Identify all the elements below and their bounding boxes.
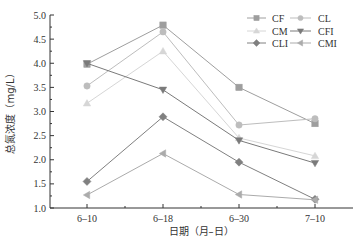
marker-triangle-up-icon: [159, 47, 166, 53]
y-tick-label: 2.0: [34, 154, 47, 165]
legend-label: CLI: [272, 38, 288, 49]
legend-label: CL: [318, 13, 331, 24]
series-line: [87, 51, 315, 156]
legend-label: CMI: [318, 38, 337, 49]
series-cfi: [83, 61, 318, 167]
marker-triangle-down-icon: [311, 160, 318, 166]
marker-diamond-icon: [253, 40, 260, 47]
series-group: [83, 22, 319, 204]
series-line: [87, 154, 315, 200]
marker-circle-icon: [312, 116, 318, 122]
x-tick-label: 6–18: [153, 213, 173, 224]
x-tick-label: 6–30: [229, 213, 249, 224]
series-line: [87, 117, 315, 200]
y-tick-label: 4.0: [34, 58, 47, 69]
legend-item-cmi: CMI: [290, 38, 337, 49]
legend: CFCLCMCFICLICMI: [247, 13, 337, 49]
y-tick-label: 3.5: [34, 82, 47, 93]
marker-triangle-left-icon: [235, 191, 241, 198]
series-cli: [83, 113, 319, 204]
legend-item-cfi: CFI: [290, 26, 334, 37]
legend-item-cm: CM: [247, 26, 288, 37]
legend-label: CM: [272, 26, 288, 37]
marker-circle-icon: [236, 122, 242, 128]
y-axis-title: 总氮浓度（mg/L）: [4, 68, 16, 153]
series-cmi: [83, 150, 317, 204]
marker-circle-icon: [84, 83, 90, 89]
legend-label: CF: [272, 13, 285, 24]
y-tick-label: 3.0: [34, 106, 47, 117]
legend-item-cl: CL: [290, 13, 331, 24]
y-tick-label: 1.5: [34, 178, 47, 189]
marker-triangle-left-icon: [83, 191, 89, 198]
y-tick-label: 2.5: [34, 130, 47, 141]
axes: 1.01.52.02.53.03.54.04.55.06–106–186–307…: [34, 10, 354, 225]
marker-triangle-up-icon: [83, 100, 90, 106]
marker-square-icon: [236, 84, 242, 90]
marker-square-icon: [254, 15, 259, 20]
marker-diamond-icon: [235, 158, 243, 166]
marker-square-icon: [160, 22, 166, 28]
series-cm: [83, 47, 318, 158]
legend-item-cli: CLI: [247, 38, 288, 49]
legend-label: CFI: [318, 26, 334, 37]
marker-triangle-left-icon: [297, 40, 302, 46]
marker-circle-icon: [298, 15, 303, 20]
x-tick-label: 7–10: [305, 213, 325, 224]
line-chart: 1.01.52.02.53.03.54.04.55.06–106–186–307…: [0, 0, 363, 247]
x-tick-label: 6–10: [77, 213, 97, 224]
y-tick-label: 4.5: [34, 34, 47, 45]
y-tick-label: 5.0: [34, 10, 47, 21]
marker-circle-icon: [160, 29, 166, 35]
marker-triangle-left-icon: [159, 150, 165, 157]
legend-item-cf: CF: [247, 13, 285, 24]
y-tick-label: 1.0: [34, 203, 47, 214]
x-axis-title: 日期（月–日）: [169, 226, 234, 237]
marker-triangle-down-icon: [159, 87, 166, 93]
